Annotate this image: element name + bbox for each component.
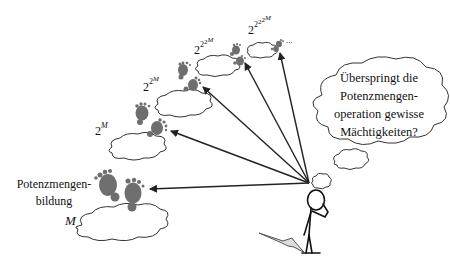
label-operation: Potenzmengen- bildung: [14, 176, 94, 210]
thought-line-4: Mächtigkeiten?: [327, 123, 431, 141]
footprints-level-1: [135, 102, 167, 137]
cloud-set-22M: [155, 89, 212, 117]
label-operation-line-1: Potenzmengen-: [14, 176, 94, 193]
cloud-set-2222M: [247, 42, 277, 58]
cloud-set-222M: [196, 55, 240, 77]
thought-bubble-small: [334, 149, 369, 170]
thought-bubble-tiny: [312, 173, 332, 188]
stick-figure: [302, 190, 328, 253]
label-operation-line-2: bildung: [14, 193, 94, 210]
footprints-level-3: [230, 43, 246, 66]
label-level-2: 22M: [143, 81, 159, 93]
label-set-M: M: [65, 214, 76, 227]
label-level-4: 2222M: [248, 24, 271, 36]
thought-line-1: Überspringt die: [327, 69, 431, 87]
cloud-set-2M: [109, 132, 166, 160]
arrows: [150, 53, 309, 189]
ground-shadow: [259, 233, 305, 253]
thought-line-2: Potenzmengen-: [327, 87, 431, 105]
label-level-3: 222M: [194, 44, 213, 56]
label-ellipsis: ...: [286, 36, 293, 45]
label-level-1: 2M: [95, 125, 108, 137]
thought-bubble-text: Überspringt die Potenzmengen- operation …: [327, 69, 431, 141]
thought-line-3: operation gewisse: [327, 105, 431, 123]
